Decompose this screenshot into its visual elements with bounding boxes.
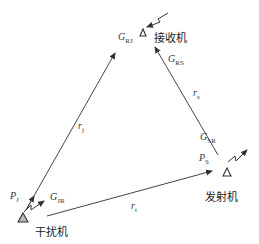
gain-rs-label: GRS (168, 53, 184, 67)
receiver-label: 接收机 (154, 29, 187, 45)
gain-rj-label: GRJ (118, 31, 133, 45)
receiver-antenna-icon (140, 29, 146, 36)
jammer-power-label: PJ (10, 190, 19, 204)
edge-label-rs: rs (193, 87, 200, 101)
transmitter-gain-label: GSR (200, 131, 216, 145)
edge-jammer-transmitter (47, 171, 212, 216)
transmitter-power-label: PS (199, 152, 209, 166)
edge-label-rj: rj (78, 120, 84, 134)
transmitter-antenna-icon (223, 168, 231, 176)
jammer-gain-label: GJR (50, 191, 65, 205)
jammer-signal-icon (24, 201, 44, 212)
transmitter-signal-icon (228, 150, 247, 162)
edge-jammer-receiver (26, 53, 115, 210)
jammer-antenna-icon (18, 213, 28, 222)
edge-label-rt: rt (131, 200, 137, 214)
jammer-label: 干扰机 (35, 223, 68, 239)
receiver-signal-icon (147, 13, 168, 27)
transmitter-label: 发射机 (205, 188, 238, 204)
